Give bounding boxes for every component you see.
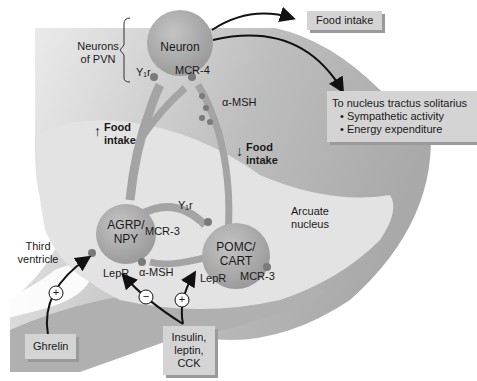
arcuate-line2: nucleus — [282, 218, 338, 231]
arcuate-nucleus-label: Arcuate nucleus — [282, 205, 338, 231]
alpha-msh-bottom-label: α-MSH — [139, 266, 173, 279]
nts-item-energy: • Energy expenditure — [332, 123, 472, 136]
nts-item-sympathetic: • Sympathetic activity — [332, 110, 472, 123]
ghrelin-input-box: Ghrelin — [25, 334, 76, 359]
pomc-line1: POMC/ — [206, 240, 266, 254]
down-arrow-icon: ↓ — [236, 145, 243, 158]
arcuate-line1: Arcuate — [282, 205, 338, 218]
agrp-lepr-label: LepR — [103, 267, 129, 280]
agrp-line2: NPY — [101, 232, 151, 246]
plus-sign-ghrelin: + — [50, 286, 62, 299]
pvn-group-label: Neurons of PVN — [72, 40, 124, 66]
food-intake-decrease-label: ↓ Food intake — [236, 141, 278, 167]
insulin-line1: Insulin, — [166, 331, 212, 344]
food-intake-increase-label: ↑ Food intake — [94, 121, 136, 147]
pomc-cart-label: POMC/ CART — [206, 240, 266, 268]
third-ventricle-line1: Third — [10, 240, 66, 253]
agrp-line1: AGRP/ — [101, 218, 151, 232]
insulin-leptin-cck-box: Insulin, leptin, CCK — [163, 326, 215, 375]
insulin-line2: leptin, — [166, 344, 212, 357]
pvn-neuron-label: Neuron — [150, 40, 210, 54]
nts-box-title: To nucleus tractus solitarius — [332, 97, 472, 110]
insulin-line3: CCK — [166, 357, 212, 370]
pomc-lepr-label: LepR — [200, 272, 226, 285]
third-ventricle-label: Third ventricle — [10, 240, 66, 266]
pvn-label-line2: of PVN — [72, 53, 124, 66]
pvn-mcr4-label: MCR-4 — [175, 64, 210, 77]
up-arrow-icon: ↑ — [94, 125, 101, 138]
pomc-mcr3-label: MCR-3 — [240, 270, 275, 283]
pvn-label-line1: Neurons — [72, 40, 124, 53]
arrow-to-food-intake — [212, 14, 292, 30]
food-intake-output-box: Food intake — [307, 11, 382, 30]
pomc-line2: CART — [206, 254, 266, 268]
third-ventricle-line2: ventricle — [10, 253, 66, 266]
agrp-npy-label: AGRP/ NPY — [101, 218, 151, 246]
minus-sign-agrp: − — [140, 290, 152, 303]
pvn-y1r-label: Y₁r — [136, 66, 151, 79]
pomc-y1r-label: Y₁r — [178, 199, 193, 212]
agrp-mcr3-label: MCR-3 — [145, 225, 180, 238]
nts-output-box: To nucleus tractus solitarius • Sympathe… — [327, 91, 477, 142]
alpha-msh-top-label: α-MSH — [222, 96, 256, 109]
plus-sign-pomc: + — [176, 293, 188, 306]
